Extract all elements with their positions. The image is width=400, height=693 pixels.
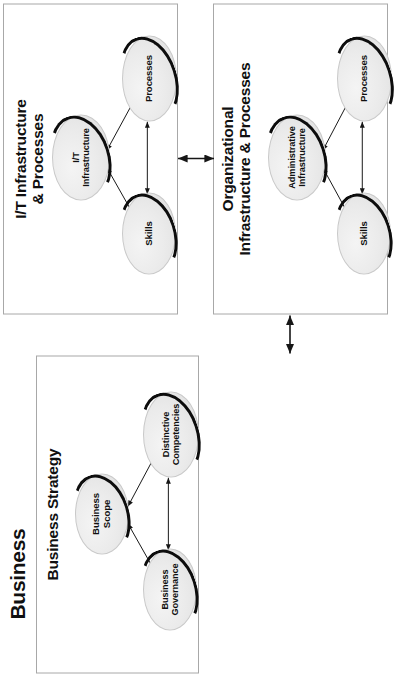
node-distinctive-competencies[interactable]: Distinctive Competencies xyxy=(143,391,199,477)
node-label-org-processes: Processes xyxy=(359,51,370,104)
quadrant-organizational-infrastructure-processes: Organizational Infrastructure & Processe… xyxy=(213,3,388,314)
node-business-scope[interactable]: Business Scope xyxy=(75,473,129,554)
diagram-canvas: Business Business Strategy Business Scop… xyxy=(0,0,400,693)
node-label-it-skills: Skills xyxy=(144,218,155,248)
node-business-governance[interactable]: Business Governance xyxy=(143,548,197,630)
connector-functional-integration-infrastructure xyxy=(176,148,216,168)
node-org-skills[interactable]: Skills xyxy=(337,192,391,274)
quadrant-it-infrastructure-processes: I/T Infrastructure & Processes I/T Infra… xyxy=(3,3,178,314)
node-it-infrastructure[interactable]: I/T Infrastructure xyxy=(52,114,110,200)
node-label-it-infrastructure: I/T Infrastructure xyxy=(71,125,92,189)
node-label-it-processes: Processes xyxy=(144,51,155,104)
connector-strategic-fit-business xyxy=(280,313,300,355)
quadrant-business-strategy: Business Strategy Business Scope Busines… xyxy=(36,355,199,673)
node-label-administrative-infrastructure: Administrative Infrastructure xyxy=(287,123,308,191)
node-label-business-scope: Business Scope xyxy=(91,490,113,538)
node-it-processes[interactable]: Processes xyxy=(122,35,177,121)
node-administrative-infrastructure[interactable]: Administrative Infrastructure xyxy=(268,114,326,200)
domain-title-business: Business xyxy=(6,528,30,619)
node-it-skills[interactable]: Skills xyxy=(122,192,176,274)
node-label-business-governance: Business Governance xyxy=(160,560,181,618)
node-label-distinctive-competencies: Distinctive Competencies xyxy=(161,400,182,468)
node-org-processes[interactable]: Processes xyxy=(337,35,392,121)
node-label-org-skills: Skills xyxy=(359,218,370,248)
